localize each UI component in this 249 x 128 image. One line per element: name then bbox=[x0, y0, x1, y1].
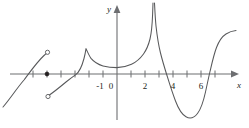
open-point-left-upper bbox=[45, 50, 49, 54]
x-tick-label-2: 2 bbox=[143, 81, 148, 91]
function-graph-figure: x y 0 -1 2 4 6 bbox=[0, 0, 249, 128]
x-tick-label-minus-1: -1 bbox=[96, 81, 104, 91]
y-axis-arrow-icon bbox=[114, 5, 121, 13]
x-tick-label-4: 4 bbox=[171, 81, 176, 91]
x-tick-label-6: 6 bbox=[199, 81, 204, 91]
origin-label: 0 bbox=[109, 81, 114, 91]
curve-branch-left bbox=[3, 53, 47, 107]
x-axis-label: x bbox=[236, 80, 241, 90]
graph-canvas: x y 0 -1 2 4 6 bbox=[0, 0, 249, 128]
open-point-middle-lower bbox=[46, 94, 50, 98]
closed-point-on-axis bbox=[45, 72, 49, 76]
curve-branch-right bbox=[155, 3, 237, 118]
x-axis-arrow-icon bbox=[231, 71, 239, 78]
y-axis-label: y bbox=[106, 4, 111, 14]
